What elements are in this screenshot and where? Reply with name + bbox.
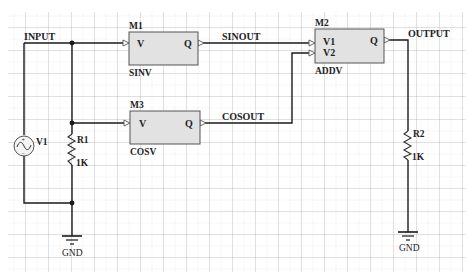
resistor-ref: R1	[77, 135, 89, 145]
net-label-sinout: SINOUT	[222, 31, 261, 42]
resistor-ref: R2	[413, 129, 425, 139]
source-ref: V1	[36, 137, 48, 147]
pin-label: Q	[185, 118, 193, 129]
junction-dot	[70, 41, 75, 46]
block-type: ADDV	[315, 66, 343, 76]
block-ref: M2	[315, 18, 329, 28]
resistor-value: 1K	[76, 158, 89, 168]
net-label-input: INPUT	[24, 31, 55, 42]
junction-dot	[70, 121, 75, 126]
pin-label: V2	[323, 47, 335, 58]
block-ref: M3	[130, 100, 144, 110]
pin-label: V	[139, 118, 147, 129]
junction-dot	[70, 201, 75, 206]
pin-label: Q	[184, 38, 192, 49]
block-ref: M1	[129, 21, 143, 31]
ground-label: GND	[62, 248, 83, 258]
pin-label: Q	[370, 35, 378, 46]
ground-label: GND	[399, 243, 420, 253]
pin-label: V1	[323, 36, 335, 47]
schematic-canvas[interactable]: INPUT SINOUT COSOUT OUTPUT M1 V Q SINV M…	[0, 0, 466, 272]
block-type: SINV	[129, 68, 152, 78]
pin-label: V	[137, 38, 145, 49]
net-label-output: OUTPUT	[408, 28, 450, 39]
block-type: COSV	[130, 147, 157, 157]
net-label-cosout: COSOUT	[222, 111, 265, 122]
resistor-value: 1K	[412, 152, 425, 162]
